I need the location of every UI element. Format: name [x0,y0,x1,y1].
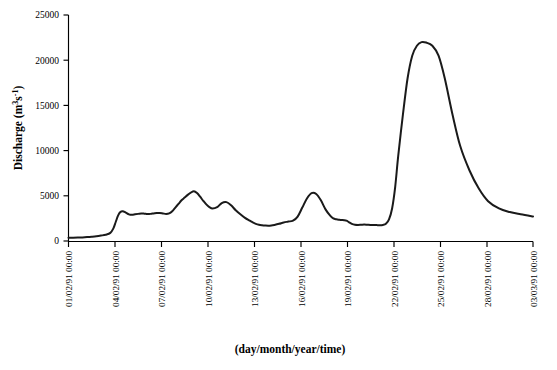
y-tick-label-25000: 25000 [35,10,59,20]
chart-figure: 0 5000 10000 15000 20000 25000 01/02/91 … [0,0,557,370]
y-axis-title-close: ) [12,86,25,90]
y-tick-label-0: 0 [54,236,59,246]
y-tick-label-20000: 20000 [35,56,59,66]
chart-background [0,0,557,370]
x-tick-label-1: 04/02/91 00:00 [111,251,121,307]
x-tick-label-5: 16/02/91 00:00 [297,251,307,307]
x-tick-label-10: 03/03/91 00:00 [529,251,539,307]
x-tick-label-9: 28/02/91 00:00 [483,251,493,307]
x-tick-label-8: 25/02/91 00:00 [436,251,446,307]
x-tick-label-0: 01/02/91 00:00 [64,251,74,307]
x-tick-label-7: 22/02/91 00:00 [390,251,400,307]
y-axis-title-sup-minus1: -1 [11,90,20,97]
x-axis-title: (day/month/year/time) [235,343,346,356]
x-tick-label-6: 19/02/91 00:00 [343,251,353,307]
y-tick-label-5000: 5000 [40,191,59,201]
y-axis-title: Discharge (m3s-1) [11,86,25,171]
y-tick-label-10000: 10000 [35,146,59,156]
y-tick-label-15000: 15000 [35,101,59,111]
x-tick-label-4: 13/02/91 00:00 [250,251,260,307]
discharge-hydrograph-chart: 0 5000 10000 15000 20000 25000 01/02/91 … [0,0,557,370]
x-tick-label-2: 07/02/91 00:00 [157,251,167,307]
x-tick-label-3: 10/02/91 00:00 [204,251,214,307]
y-axis-title-base: Discharge (m [12,104,25,170]
